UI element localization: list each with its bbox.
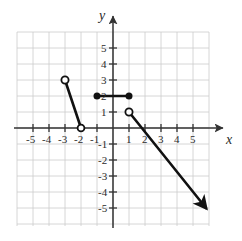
graph-figure: -5 -4 -3 -2 -1 1 2 3 4 5 5 4 3 2 1 -1 -2… <box>0 0 242 241</box>
coordinate-plane <box>0 0 242 241</box>
open-endpoint-marker <box>125 108 132 115</box>
x-tick-label-2: 2 <box>142 134 148 145</box>
y-tick-label--1: -1 <box>98 139 107 150</box>
closed-endpoint-marker <box>126 93 133 100</box>
x-tick-label--3: -3 <box>58 134 67 145</box>
open-endpoint-marker <box>78 125 85 132</box>
x-tick-label--4: -4 <box>42 134 51 145</box>
y-tick-label-4: 4 <box>101 59 107 70</box>
open-endpoint-marker <box>61 76 68 83</box>
y-tick-label--4: -4 <box>98 187 107 198</box>
y-tick-label-5: 5 <box>101 43 107 54</box>
x-tick-label-3: 3 <box>158 134 164 145</box>
segment-1-line <box>65 80 81 128</box>
y-tick-label--3: -3 <box>98 171 107 182</box>
y-tick-label-1: 1 <box>101 107 107 118</box>
y-tick-label--2: -2 <box>98 155 107 166</box>
x-axis-label: x <box>226 133 232 147</box>
y-tick-label--5: -5 <box>98 203 107 214</box>
x-tick-label-5: 5 <box>190 134 196 145</box>
y-tick-label-3: 3 <box>101 75 107 86</box>
x-tick-label--5: -5 <box>26 134 35 145</box>
x-tick-label--2: -2 <box>74 134 83 145</box>
closed-endpoint-marker <box>94 93 101 100</box>
x-tick-label-4: 4 <box>174 134 180 145</box>
y-axis-label: y <box>99 9 105 23</box>
x-tick-label-1: 1 <box>126 134 132 145</box>
y-tick-label-2: 2 <box>101 91 107 102</box>
